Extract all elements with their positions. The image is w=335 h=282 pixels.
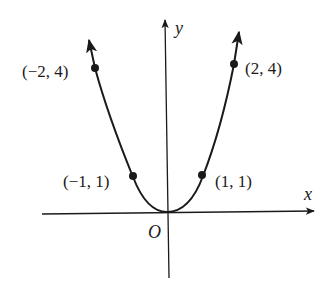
- y-axis-label: y: [173, 18, 183, 38]
- point-label-1-1: (1, 1): [215, 172, 252, 191]
- point-neg1-1: [129, 172, 137, 180]
- y-axis: [165, 20, 169, 278]
- parabola-diagram: (−2, 4) (−1, 1) (1, 1) (2, 4) y x O: [0, 0, 335, 282]
- origin-label: O: [148, 222, 161, 242]
- x-axis: [42, 211, 314, 214]
- point-neg2-4: [91, 64, 99, 72]
- point-label-neg2-4: (−2, 4): [22, 62, 68, 81]
- point-label-neg1-1: (−1, 1): [63, 172, 109, 191]
- point-1-1: [198, 171, 206, 179]
- point-2-4: [230, 60, 238, 68]
- point-label-2-4: (2, 4): [245, 59, 282, 78]
- x-axis-label: x: [303, 184, 312, 204]
